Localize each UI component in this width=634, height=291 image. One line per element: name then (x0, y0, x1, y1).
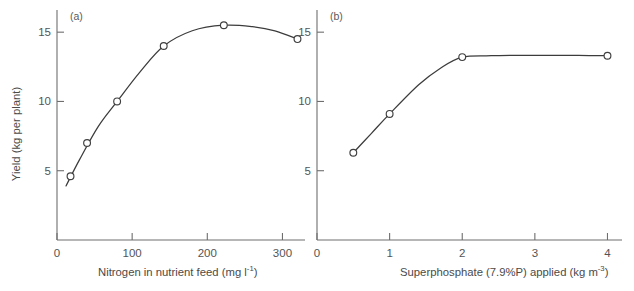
panel-label: (a) (70, 10, 83, 22)
data-point (220, 22, 227, 29)
x-tick-label-4: 4 (604, 247, 611, 259)
chart-panel-a: 510150100200300(a) Yield (kg per plant) … (0, 0, 312, 291)
plot-area-b: 5101501234(b) (312, 0, 634, 260)
x-tick-label-0: 0 (54, 247, 60, 259)
x-axis-title-b-exponent: -3 (598, 264, 605, 273)
x-tick-label-100: 100 (123, 247, 142, 259)
x-axis-title-a-exponent: -1 (247, 264, 254, 273)
x-axis-title-a: Nitrogen in nutrient feed (mg l-1) (98, 266, 257, 278)
figure-container: 510150100200300(a) Yield (kg per plant) … (0, 0, 634, 291)
figure-caption-cropped (0, 286, 634, 291)
x-tick-label-0: 0 (314, 247, 320, 259)
y-tick-label-5: 5 (45, 165, 51, 177)
y-tick-label-10: 10 (38, 95, 51, 107)
data-point (160, 43, 167, 50)
x-tick-label-1: 1 (386, 247, 392, 259)
data-point (459, 54, 466, 61)
data-point (386, 111, 393, 118)
fitted-curve (353, 55, 607, 152)
panel-label: (b) (330, 10, 343, 22)
x-tick-label-300: 300 (273, 247, 292, 259)
plot-area-a: 510150100200300(a) (0, 0, 312, 260)
fitted-curve (66, 25, 297, 186)
y-tick-label-10: 10 (298, 95, 311, 107)
x-tick-label-200: 200 (198, 247, 217, 259)
data-point (114, 98, 121, 105)
y-axis-title-a: Yield (kg per plant) (10, 74, 22, 194)
data-point (604, 52, 611, 59)
y-tick-label-15: 15 (298, 26, 311, 38)
y-tick-label-15: 15 (38, 26, 51, 38)
data-point (84, 140, 91, 147)
data-point (67, 173, 74, 180)
x-tick-label-3: 3 (532, 247, 538, 259)
data-point (350, 149, 357, 156)
x-tick-label-2: 2 (459, 247, 465, 259)
x-axis-title-b: Superphosphate (7.9%P) applied (kg m-3) (400, 266, 608, 278)
chart-panel-b: 5101501234(b) Superphosphate (7.9%P) app… (312, 0, 634, 291)
y-tick-label-5: 5 (305, 165, 311, 177)
